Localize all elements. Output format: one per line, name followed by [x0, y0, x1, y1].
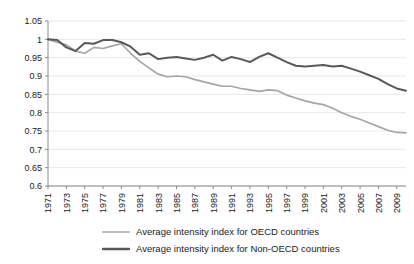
- x-tick-label: 1989: [209, 193, 219, 213]
- y-tick-label: 0.9: [29, 71, 42, 81]
- x-tick-label: 2003: [337, 193, 347, 213]
- x-tick-label: 2007: [374, 193, 384, 213]
- y-tick-label: 0.7: [29, 145, 42, 155]
- y-tick-label: 0.75: [24, 126, 42, 136]
- series-line-oecd: [48, 39, 406, 133]
- y-tick-label: 0.95: [24, 53, 42, 63]
- y-tick-label: 0.65: [24, 163, 42, 173]
- chart-container: 0.60.650.70.750.80.850.90.9511.051971197…: [0, 0, 414, 264]
- x-tick-label: 1981: [135, 193, 145, 213]
- x-tick-label: 1999: [300, 193, 310, 213]
- x-tick-label: 2001: [319, 193, 329, 213]
- y-tick-label: 1: [37, 35, 42, 45]
- x-tick-label: 2009: [392, 193, 402, 213]
- y-tick-label: 0.6: [29, 181, 42, 191]
- x-tick-label: 1987: [190, 193, 200, 213]
- x-tick-label: 1991: [227, 193, 237, 213]
- legend-label: Average intensity index for OECD countri…: [136, 226, 319, 237]
- x-tick-label: 1983: [154, 193, 164, 213]
- x-tick-label: 1995: [264, 193, 274, 213]
- y-tick-label: 1.05: [24, 16, 42, 26]
- x-tick-label: 1993: [245, 193, 255, 213]
- series-group: [48, 39, 406, 133]
- series-line-non-oecd: [48, 39, 406, 90]
- x-tick-label: 1977: [98, 193, 108, 213]
- gridlines: [48, 21, 406, 186]
- x-tick-label: 2005: [356, 193, 366, 213]
- line-chart: 0.60.650.70.750.80.850.90.9511.051971197…: [0, 0, 414, 264]
- x-axis: 1971197319751977197919811983198519871989…: [43, 186, 406, 213]
- legend: Average intensity index for OECD countri…: [103, 226, 340, 254]
- x-tick-label: 1975: [80, 193, 90, 213]
- x-tick-label: 1973: [62, 193, 72, 213]
- y-tick-label: 0.85: [24, 90, 42, 100]
- y-tick-label: 0.8: [29, 108, 42, 118]
- y-axis: 0.60.650.70.750.80.850.90.9511.05: [24, 16, 48, 191]
- legend-label: Average intensity index for Non-OECD cou…: [136, 243, 340, 254]
- x-tick-label: 1985: [172, 193, 182, 213]
- x-tick-label: 1979: [117, 193, 127, 213]
- x-tick-label: 1971: [43, 193, 53, 213]
- x-tick-label: 1997: [282, 193, 292, 213]
